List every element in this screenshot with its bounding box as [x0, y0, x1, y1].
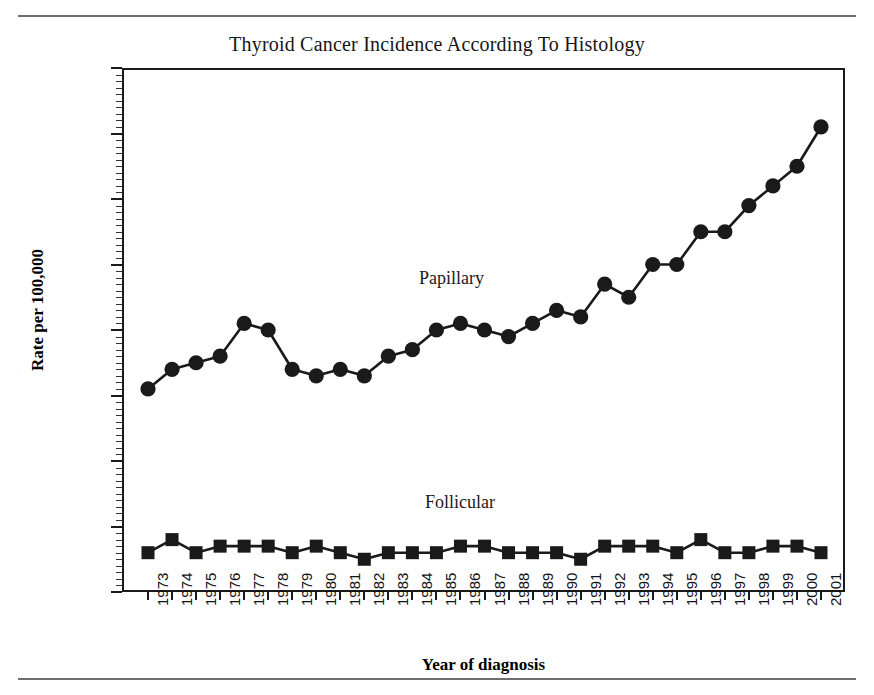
- data-point-follicular-1992: [598, 540, 611, 553]
- x-tick: [700, 592, 702, 600]
- y-tick-minor: [116, 225, 122, 226]
- y-tick-minor: [116, 284, 122, 285]
- y-tick-minor: [116, 251, 122, 252]
- data-point-papillary-1986: [453, 316, 468, 331]
- y-tick-minor: [116, 278, 122, 279]
- data-point-follicular-1985: [430, 546, 443, 559]
- x-tick-label: 1996: [707, 573, 724, 606]
- data-point-papillary-1996: [693, 224, 708, 239]
- y-tick-major: [111, 264, 122, 266]
- x-tick-label: 1985: [442, 573, 459, 606]
- x-tick-label: 1991: [587, 573, 604, 606]
- y-tick-minor: [116, 454, 122, 455]
- x-tick: [628, 592, 630, 600]
- x-tick: [724, 592, 726, 600]
- data-point-follicular-1984: [406, 546, 419, 559]
- y-tick-minor: [116, 337, 122, 338]
- x-tick: [459, 592, 461, 600]
- x-tick: [556, 592, 558, 600]
- papillary-series-label: Papillary: [419, 268, 484, 289]
- y-tick-minor: [116, 219, 122, 220]
- data-point-papillary-1990: [549, 303, 564, 318]
- data-point-papillary-1983: [381, 349, 396, 364]
- data-point-follicular-1988: [502, 546, 515, 559]
- data-point-follicular-1974: [166, 533, 179, 546]
- x-tick: [772, 592, 774, 600]
- y-tick-minor: [116, 166, 122, 167]
- x-tick-label: 1977: [250, 573, 267, 606]
- data-point-papillary-1995: [669, 257, 684, 272]
- x-tick: [171, 592, 173, 600]
- y-tick-minor: [116, 173, 122, 174]
- data-point-papillary-1984: [405, 342, 420, 357]
- data-point-papillary-1988: [501, 329, 516, 344]
- data-point-papillary-1978: [261, 322, 276, 337]
- x-tick-label: 1980: [322, 573, 339, 606]
- y-tick-minor: [116, 271, 122, 272]
- y-tick-major: [111, 67, 122, 69]
- data-point-papillary-1977: [237, 316, 252, 331]
- data-point-papillary-1985: [429, 322, 444, 337]
- y-axis-title: Rate per 100,000: [28, 210, 48, 410]
- x-tick: [219, 592, 221, 600]
- y-tick-minor: [116, 127, 122, 128]
- y-tick-minor: [116, 343, 122, 344]
- data-point-papillary-1973: [140, 381, 155, 396]
- y-tick-minor: [116, 258, 122, 259]
- bottom-divider-rule: [18, 678, 856, 680]
- y-tick-minor: [116, 559, 122, 560]
- y-tick-minor: [116, 409, 122, 410]
- data-point-papillary-1981: [333, 362, 348, 377]
- y-tick-minor: [116, 291, 122, 292]
- x-tick-label: 1978: [274, 573, 291, 606]
- y-tick-minor: [116, 304, 122, 305]
- y-tick-minor: [116, 212, 122, 213]
- y-tick-minor: [116, 520, 122, 521]
- data-point-follicular-1994: [646, 540, 659, 553]
- y-tick-minor: [116, 494, 122, 495]
- x-tick-label: 1989: [539, 573, 556, 606]
- x-tick-label: 1997: [731, 573, 748, 606]
- data-point-follicular-1993: [622, 540, 635, 553]
- y-tick-minor: [116, 206, 122, 207]
- y-tick-minor: [116, 553, 122, 554]
- data-point-papillary-1980: [309, 368, 324, 383]
- x-tick-label: 1984: [418, 573, 435, 606]
- data-point-follicular-1980: [310, 540, 323, 553]
- data-point-papillary-1992: [597, 277, 612, 292]
- y-tick-major: [111, 133, 122, 135]
- data-point-follicular-2000: [790, 540, 803, 553]
- data-point-follicular-1982: [358, 553, 371, 566]
- x-tick-label: 1993: [635, 573, 652, 606]
- x-tick: [387, 592, 389, 600]
- x-axis-title: Year of diagnosis: [122, 655, 845, 675]
- data-point-follicular-1983: [382, 546, 395, 559]
- x-tick-label: 1976: [226, 573, 243, 606]
- y-tick-minor: [116, 179, 122, 180]
- y-tick-minor: [116, 186, 122, 187]
- x-tick-label: 1974: [178, 573, 195, 606]
- y-tick-minor: [116, 323, 122, 324]
- x-tick-label: 1982: [370, 573, 387, 606]
- data-point-follicular-1991: [574, 553, 587, 566]
- y-tick-minor: [116, 81, 122, 82]
- x-tick: [315, 592, 317, 600]
- y-tick-minor: [116, 441, 122, 442]
- data-point-papillary-1999: [765, 178, 780, 193]
- y-tick-minor: [116, 376, 122, 377]
- x-tick-label: 1979: [298, 573, 315, 606]
- data-point-papillary-1991: [573, 309, 588, 324]
- x-tick-label: 1983: [394, 573, 411, 606]
- y-tick-minor: [116, 579, 122, 580]
- data-point-follicular-1995: [670, 546, 683, 559]
- x-tick-label: 1988: [515, 573, 532, 606]
- y-tick-minor: [116, 487, 122, 488]
- y-tick-minor: [116, 350, 122, 351]
- y-tick-major: [111, 591, 122, 593]
- data-point-papillary-1993: [621, 290, 636, 305]
- y-tick-minor: [116, 402, 122, 403]
- y-tick-minor: [116, 160, 122, 161]
- y-tick-major: [111, 198, 122, 200]
- y-tick-minor: [116, 422, 122, 423]
- x-tick: [243, 592, 245, 600]
